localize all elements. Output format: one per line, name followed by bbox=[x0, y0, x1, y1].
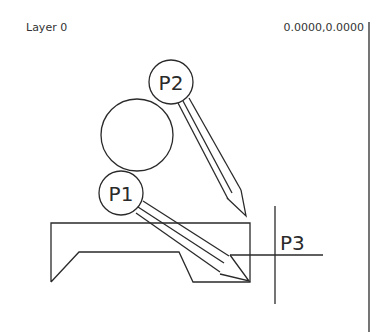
marker-p1-label: P1 bbox=[109, 182, 134, 206]
pencil-p2-icon bbox=[178, 98, 246, 216]
marker-p1[interactable]: P1 bbox=[99, 171, 143, 215]
marker-p3-label: P3 bbox=[280, 231, 305, 255]
crosshair-p3[interactable]: P3 bbox=[230, 206, 323, 304]
block-shape bbox=[51, 223, 250, 282]
marker-p2[interactable]: P2 bbox=[149, 60, 193, 104]
marker-p2-label: P2 bbox=[159, 71, 184, 95]
cad-drawing: P1 P2 P3 bbox=[0, 0, 379, 332]
large-circle bbox=[101, 99, 173, 171]
pencil-p1-icon bbox=[136, 201, 249, 281]
drawing-canvas[interactable]: Layer 0 0.0000,0.0000 P1 bbox=[0, 0, 379, 332]
